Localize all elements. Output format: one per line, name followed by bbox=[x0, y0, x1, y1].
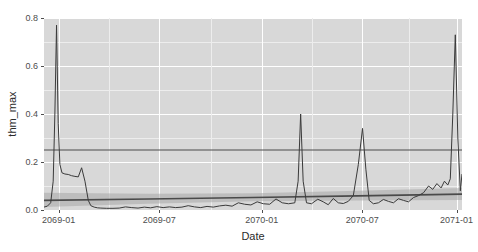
data-line bbox=[44, 25, 462, 208]
x-tick-mark bbox=[159, 210, 160, 213]
y-tick-mark bbox=[41, 210, 44, 211]
x-tick-label: 2071-01 bbox=[427, 216, 478, 225]
y-tick-label: 0.0 bbox=[8, 206, 38, 215]
plot-panel bbox=[44, 18, 462, 210]
x-tick-mark bbox=[262, 210, 263, 213]
chart-container: thm_max 0.00.20.40.60.8 2069-012069-0720… bbox=[0, 0, 478, 252]
y-tick-label: 0.8 bbox=[8, 14, 38, 23]
x-tick-mark bbox=[59, 210, 60, 213]
y-tick-label: 0.4 bbox=[8, 110, 38, 119]
x-axis-title: Date bbox=[44, 230, 462, 242]
y-tick-label: 0.2 bbox=[8, 158, 38, 167]
plot-svg bbox=[44, 18, 462, 210]
x-tick-mark bbox=[457, 210, 458, 213]
x-tick-label: 2069-07 bbox=[129, 216, 189, 225]
y-tick-label: 0.6 bbox=[8, 62, 38, 71]
x-tick-mark bbox=[362, 210, 363, 213]
x-tick-label: 2070-07 bbox=[332, 216, 392, 225]
x-tick-label: 2070-01 bbox=[232, 216, 292, 225]
x-tick-label: 2069-01 bbox=[29, 216, 89, 225]
